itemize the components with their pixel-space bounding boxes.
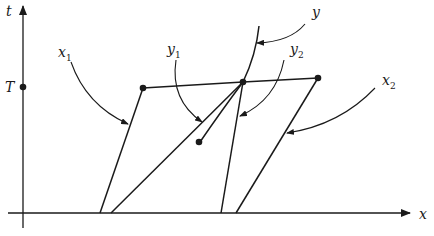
- y1-curve: [200, 82, 243, 142]
- x2-characteristic: [236, 78, 318, 213]
- x1-pointer-arrow: [71, 62, 128, 124]
- left-vertex-dot: [140, 85, 147, 92]
- y1-end-dot: [196, 139, 203, 146]
- y-label: y: [311, 4, 321, 20]
- right-vertex-dot: [315, 75, 322, 82]
- x1-label: x1: [58, 44, 72, 63]
- t-axis-label: t: [6, 3, 12, 19]
- T-tick-dot: [20, 84, 27, 91]
- y-curve: [243, 26, 259, 82]
- diagram-canvas: t x T x1 y1 y y2 x2: [0, 0, 434, 236]
- y1-label: y1: [166, 41, 181, 60]
- top-segment-left: [143, 82, 243, 88]
- top-segment-right: [243, 78, 318, 82]
- intersection-dot: [240, 79, 247, 86]
- y2-characteristic: [221, 82, 243, 213]
- y1-boundary-line: [111, 82, 243, 213]
- characteristics-diagram: t x T x1 y1 y y2 x2: [0, 0, 434, 236]
- T-tick-label: T: [5, 79, 16, 95]
- x1-characteristic: [100, 88, 143, 213]
- x-axis-label: x: [419, 206, 427, 222]
- y2-pointer-arrow: [240, 60, 284, 116]
- x2-label: x2: [382, 72, 396, 91]
- y1-pointer-arrow: [175, 60, 202, 122]
- y2-label: y2: [289, 41, 304, 60]
- x2-pointer-arrow: [287, 88, 375, 133]
